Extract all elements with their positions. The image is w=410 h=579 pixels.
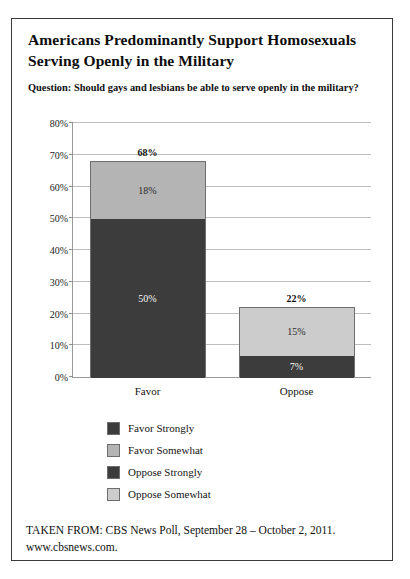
page-title-line-1: Americans Predominantly Support Homosexu… — [28, 29, 378, 50]
legend-label: Favor Somewhat — [128, 444, 203, 456]
chart-legend: Favor StronglyFavor SomewhatOppose Stron… — [107, 417, 307, 505]
y-axis-tick-label: 40% — [50, 245, 68, 256]
source-line-2: www.cbsnews.com. — [26, 539, 386, 556]
x-axis-category-label: Oppose — [239, 385, 355, 397]
y-tick-mark-10 — [69, 344, 73, 345]
y-axis-tick-label: 50% — [50, 213, 68, 224]
gridline-80 — [73, 122, 371, 123]
bar-segment-oppose-somewhat: 15% — [240, 308, 354, 356]
page-border-frame: Americans Predominantly Support Homosexu… — [11, 18, 393, 561]
legend-label: Oppose Strongly — [128, 466, 202, 478]
y-tick-mark-20 — [69, 313, 73, 314]
y-axis-tick-label: 80% — [50, 118, 68, 129]
y-axis-tick-label: 70% — [50, 149, 68, 160]
y-tick-mark-30 — [69, 281, 73, 282]
chart-plot-area: 0%10%20%30%40%50%60%70%80%18%50%68%Favor… — [72, 123, 371, 378]
y-tick-mark-40 — [69, 249, 73, 250]
y-tick-mark-80 — [69, 122, 73, 123]
page-title: Americans Predominantly Support Homosexu… — [28, 29, 378, 71]
y-axis-tick-label: 10% — [50, 340, 68, 351]
legend-swatch-icon — [107, 488, 120, 501]
y-axis-tick-label: 0% — [55, 372, 68, 383]
y-tick-mark-70 — [69, 154, 73, 155]
bar-stack: 18%50% — [90, 161, 206, 377]
bar-segment-favor-strongly: 50% — [91, 219, 205, 378]
source-line-1: TAKEN FROM: CBS News Poll, September 28 … — [26, 522, 386, 539]
y-axis-tick-label: 30% — [50, 276, 68, 287]
bar-segment-favor-somewhat: 18% — [91, 162, 205, 219]
question-text: Question: Should gays and lesbians be ab… — [28, 81, 384, 94]
y-tick-mark-60 — [69, 186, 73, 187]
legend-item: Favor Somewhat — [107, 439, 307, 461]
source-footer: TAKEN FROM: CBS News Poll, September 28 … — [26, 522, 386, 556]
legend-item: Oppose Somewhat — [107, 483, 307, 505]
segment-value-label: 50% — [138, 293, 156, 304]
bar-total-label: 22% — [239, 293, 355, 304]
legend-label: Oppose Somewhat — [128, 488, 211, 500]
stacked-bar-chart: 0%10%20%30%40%50%60%70%80%18%50%68%Favor… — [22, 109, 384, 409]
bar-stack: 15%7% — [239, 307, 355, 377]
x-axis-category-label: Favor — [90, 385, 206, 397]
bar-segment-oppose-strongly: 7% — [240, 356, 354, 378]
legend-item: Oppose Strongly — [107, 461, 307, 483]
legend-item: Favor Strongly — [107, 417, 307, 439]
legend-swatch-icon — [107, 466, 120, 479]
y-tick-mark-0 — [69, 376, 73, 377]
legend-swatch-icon — [107, 422, 120, 435]
segment-value-label: 18% — [138, 185, 156, 196]
legend-swatch-icon — [107, 444, 120, 457]
bar-total-label: 68% — [90, 147, 206, 158]
y-axis-tick-label: 20% — [50, 308, 68, 319]
segment-value-label: 7% — [290, 361, 303, 372]
y-tick-mark-50 — [69, 217, 73, 218]
page-title-line-2: Serving Openly in the Military — [28, 50, 378, 71]
bar-group-oppose: 15%7%22%Oppose — [239, 307, 355, 377]
bar-group-favor: 18%50%68%Favor — [90, 161, 206, 377]
segment-value-label: 15% — [287, 326, 305, 337]
legend-label: Favor Strongly — [128, 422, 194, 434]
y-axis-tick-label: 60% — [50, 181, 68, 192]
